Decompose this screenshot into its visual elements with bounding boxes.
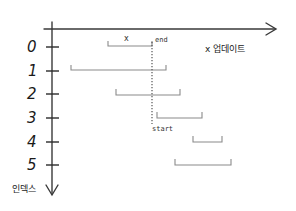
x-axis-label: x 업데이트 <box>205 44 245 54</box>
index-label-0: 0 <box>27 38 37 56</box>
index-label-2: 2 <box>27 85 37 103</box>
interval-row-4 <box>193 136 222 142</box>
interval-row-5 <box>175 159 231 165</box>
interval-brackets <box>71 41 231 165</box>
index-label-5: 5 <box>27 156 37 174</box>
index-label-3: 3 <box>27 109 37 127</box>
y-axis <box>46 22 58 195</box>
interval-diagram: 0 1 2 3 4 5 인덱스 x 업데이트 x end start <box>0 0 296 211</box>
start-label: start <box>152 125 173 133</box>
index-label-4: 4 <box>27 133 37 151</box>
index-label-1: 1 <box>28 62 38 80</box>
x-marker-label: x <box>124 34 129 43</box>
interval-row-0 <box>108 41 152 46</box>
y-axis-label: 인덱스 <box>12 184 36 194</box>
end-label: end <box>155 36 168 44</box>
interval-row-3 <box>157 112 202 118</box>
x-axis <box>44 23 276 35</box>
interval-row-2 <box>116 89 180 95</box>
index-labels: 0 1 2 3 4 5 <box>27 38 38 174</box>
